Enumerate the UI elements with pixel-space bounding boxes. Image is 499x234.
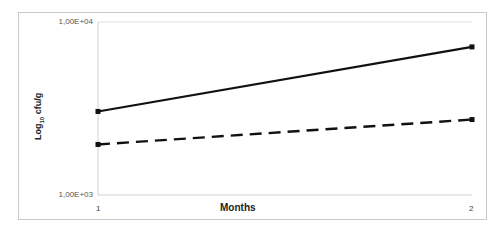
y-tick-label-bottom: 1,00E+03 <box>33 190 93 199</box>
series-solid-marker <box>470 44 475 49</box>
y-tick-label-top: 1,00E+04 <box>33 17 93 26</box>
series-dashed-marker <box>470 117 475 122</box>
series-solid-line <box>98 47 472 112</box>
y-axis-title: Log10 cfu/g <box>33 93 45 140</box>
x-axis-title: Months <box>220 202 256 213</box>
y-axis-title-unit: cfu/g <box>33 93 43 117</box>
series-solid-marker <box>96 109 101 114</box>
y-axis-title-sub: 10 <box>39 117 45 124</box>
series-dashed-line <box>98 120 472 145</box>
y-axis-title-log: Log <box>33 124 43 141</box>
x-tick-label-1: 1 <box>96 204 100 213</box>
x-tick-label-2: 2 <box>469 204 473 213</box>
series-dashed-marker <box>96 142 101 147</box>
